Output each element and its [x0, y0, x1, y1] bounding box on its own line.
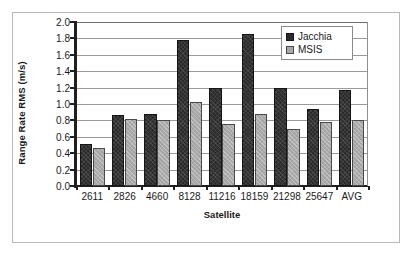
y-tick-mark — [70, 21, 75, 23]
bar-group — [177, 22, 202, 186]
legend-swatch-msis — [286, 46, 294, 54]
y-tick-label: 0.6 — [56, 131, 70, 142]
chart-legend: Jacchia MSIS — [281, 26, 353, 60]
bar-jacchia-8128 — [177, 40, 189, 186]
y-tick-label: 0.0 — [56, 181, 70, 192]
chart-figure: Range Rate RMS (m/s) 0.00.20.40.60.81.01… — [0, 0, 419, 257]
bar-jacchia-4660 — [144, 114, 156, 186]
x-tick-label: 11216 — [208, 191, 235, 202]
y-tick-label: 1.8 — [56, 33, 70, 44]
y-tick-mark — [70, 70, 75, 72]
bar-jacchia-avg — [339, 90, 351, 186]
bar-msis-21298 — [287, 129, 299, 186]
bar-msis-11216 — [222, 124, 234, 186]
y-axis-title: Range Rate RMS (m/s) — [16, 48, 32, 178]
bar-msis-avg — [352, 120, 364, 186]
y-tick-mark — [70, 185, 75, 187]
x-tick-label: 2611 — [81, 191, 103, 202]
bar-group — [80, 22, 105, 186]
y-tick-mark — [70, 54, 75, 56]
bar-group — [112, 22, 137, 186]
bar-jacchia-11216 — [209, 88, 221, 186]
y-tick-label: 1.6 — [56, 49, 70, 60]
x-tick-mark — [141, 186, 143, 190]
y-axis-tick-labels: 0.00.20.40.60.81.01.21.41.61.82.0 — [40, 22, 72, 186]
x-tick-label: 2826 — [114, 191, 136, 202]
bar-msis-2611 — [93, 148, 105, 186]
x-tick-label: AVG — [342, 191, 362, 202]
y-tick-label: 0.2 — [56, 164, 70, 175]
legend-label-msis: MSIS — [298, 43, 322, 56]
x-axis-title: Satellite — [76, 209, 368, 220]
bar-msis-8128 — [190, 102, 202, 186]
x-tick-label: 18159 — [241, 191, 269, 202]
x-tick-mark — [336, 186, 338, 190]
x-tick-mark — [173, 186, 175, 190]
bar-msis-25647 — [320, 122, 332, 186]
bar-jacchia-2826 — [112, 115, 124, 186]
bar-jacchia-18159 — [242, 34, 254, 186]
y-tick-mark — [70, 87, 75, 89]
x-tick-label: 21298 — [273, 191, 301, 202]
bar-jacchia-2611 — [80, 144, 92, 186]
y-tick-label: 1.4 — [56, 66, 70, 77]
bar-msis-18159 — [255, 114, 267, 186]
legend-item-msis: MSIS — [286, 43, 348, 56]
bar-jacchia-21298 — [274, 88, 286, 186]
bar-group — [242, 22, 267, 186]
x-tick-mark — [303, 186, 305, 190]
y-tick-mark — [70, 169, 75, 171]
bar-group — [209, 22, 234, 186]
x-tick-mark — [206, 186, 208, 190]
bar-msis-2826 — [125, 119, 137, 186]
y-tick-label: 0.4 — [56, 148, 70, 159]
x-tick-label: 4660 — [146, 191, 168, 202]
legend-item-jacchia: Jacchia — [286, 30, 348, 43]
y-tick-mark — [70, 136, 75, 138]
bar-group — [144, 22, 169, 186]
x-tick-label: 8128 — [178, 191, 200, 202]
y-tick-label: 1.2 — [56, 82, 70, 93]
y-tick-mark — [70, 103, 75, 105]
y-tick-mark — [70, 152, 75, 154]
x-tick-mark — [238, 186, 240, 190]
x-axis-tick-labels: 261128264660812811216181592129825647AVG — [76, 191, 368, 205]
x-tick-mark — [76, 186, 78, 190]
bar-jacchia-25647 — [307, 109, 319, 186]
x-tick-label: 25647 — [305, 191, 333, 202]
y-tick-label: 0.8 — [56, 115, 70, 126]
y-tick-mark — [70, 37, 75, 39]
legend-swatch-jacchia — [286, 33, 294, 41]
bar-msis-4660 — [157, 120, 169, 186]
x-tick-mark — [108, 186, 110, 190]
legend-label-jacchia: Jacchia — [298, 30, 332, 43]
x-tick-mark — [368, 186, 370, 190]
y-tick-label: 2.0 — [56, 17, 70, 28]
x-tick-mark — [271, 186, 273, 190]
y-tick-label: 1.0 — [56, 99, 70, 110]
y-tick-mark — [70, 119, 75, 121]
